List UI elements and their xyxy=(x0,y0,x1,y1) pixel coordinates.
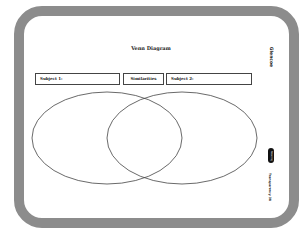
transparency-label: Transparency 38 xyxy=(266,170,274,204)
publisher-logo: Glencoe xyxy=(267,36,275,78)
reading-badge: Reading xyxy=(268,148,274,163)
venn-circles xyxy=(0,0,302,234)
